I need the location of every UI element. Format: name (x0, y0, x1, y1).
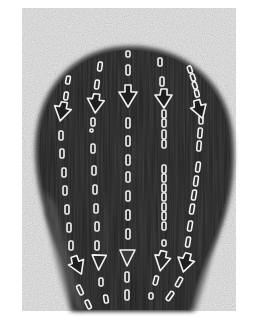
hair-direction-diagram (0, 0, 260, 325)
